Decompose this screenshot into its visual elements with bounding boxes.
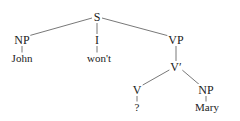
node-np-object: NP: [197, 84, 214, 96]
node-np-subject: NP: [13, 34, 30, 46]
node-s: S: [93, 11, 102, 23]
word-mary: Mary: [194, 102, 220, 113]
word-john: John: [11, 53, 34, 64]
node-v: V: [132, 84, 143, 96]
edge-s-np: [28, 18, 92, 36]
word-question-mark: ?: [134, 102, 141, 113]
edge-s-vp: [102, 18, 169, 36]
node-i: I: [94, 34, 100, 46]
node-v-bar: V′: [169, 61, 182, 73]
edge-vbar-v: [141, 69, 171, 86]
word-wont: won't: [86, 53, 112, 64]
node-vp: VP: [167, 34, 184, 46]
